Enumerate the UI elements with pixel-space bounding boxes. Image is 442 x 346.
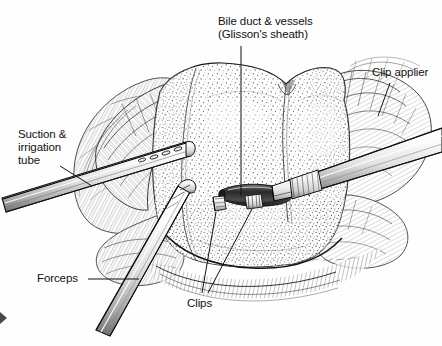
clip-2 [245,194,263,209]
label-suction-line3: tube [18,154,40,166]
edge-mark [0,312,7,324]
label-bile-duct: Bile duct & vessels(Glisson's sheath) [218,15,313,41]
label-bile-duct-line2: (Glisson's sheath) [218,28,308,40]
label-suction-irrigation-tube: Suction &irrigationtube [18,128,66,168]
liver-parenchyma [150,60,360,270]
label-suction-line1: Suction & [18,128,66,140]
label-suction-line2: irrigation [18,141,61,153]
label-clips-text: Clips [187,297,212,309]
surgical-illustration-figure: Bile duct & vessels(Glisson's sheath) Cl… [0,0,442,346]
label-clips: Clips [187,297,212,310]
label-clip-applier-text: Clip applier [372,66,428,78]
label-bile-duct-line1: Bile duct & vessels [218,15,313,27]
label-forceps-text: Forceps [37,272,78,284]
clip-1 [213,196,226,211]
label-forceps: Forceps [37,272,78,285]
label-clip-applier: Clip applier [372,66,428,79]
illustration-artwork [0,0,442,346]
